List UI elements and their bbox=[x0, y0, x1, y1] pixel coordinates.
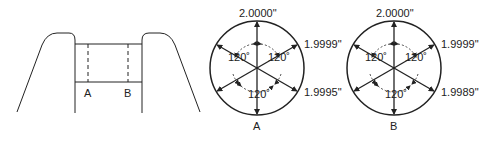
gauge-b-angle-right: 120˚ bbox=[405, 51, 427, 63]
gauge-b-reading-upper-right: 1.9999" bbox=[441, 38, 479, 50]
gauge-b-angle-bottom: 120˚ bbox=[385, 88, 407, 100]
gauge-a-reading-upper-right: 1.9999" bbox=[304, 38, 342, 50]
diagram-canvas: A B 2.0000" 1.9999" 1.9995" 120˚ 120˚ 12… bbox=[0, 0, 489, 142]
left-wall bbox=[17, 33, 75, 113]
gauge-b-angle-left: 120˚ bbox=[365, 51, 387, 63]
gauge-b bbox=[347, 21, 441, 115]
section-label-a: A bbox=[84, 87, 92, 99]
bore-profile bbox=[17, 33, 200, 113]
section-label-b: B bbox=[124, 87, 131, 99]
gauge-a bbox=[210, 21, 304, 115]
gauge-b-reading-top: 2.0000" bbox=[376, 7, 414, 19]
right-wall bbox=[142, 33, 200, 113]
gauge-b-reading-lower-right: 1.9989" bbox=[441, 86, 479, 98]
gauge-a-angle-bottom: 120˚ bbox=[248, 88, 270, 100]
gauge-a-reading-top: 2.0000" bbox=[239, 7, 277, 19]
gauge-a-reading-lower-right: 1.9995" bbox=[304, 86, 342, 98]
gauge-a-label: A bbox=[253, 120, 261, 132]
gauge-a-angle-left: 120˚ bbox=[228, 51, 250, 63]
gauge-b-label: B bbox=[390, 120, 397, 132]
gauge-a-angle-right: 120˚ bbox=[268, 51, 290, 63]
